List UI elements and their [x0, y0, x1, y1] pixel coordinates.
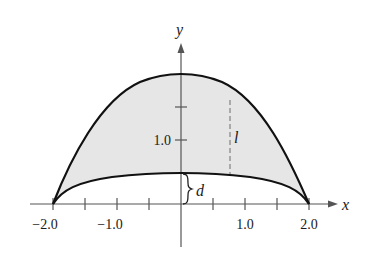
distance-label: d — [196, 182, 205, 199]
region-diagram: y x −2.0 −1.0 1.0 2.0 1.0 l d — [0, 0, 369, 255]
x-tick-label-neg1: −1.0 — [97, 217, 122, 232]
distance-brace — [183, 174, 192, 204]
length-label: l — [234, 129, 239, 146]
x-axis-arrow-icon — [328, 201, 338, 208]
y-tick-label-1: 1.0 — [154, 133, 172, 148]
x-tick-label-neg2: −2.0 — [32, 217, 57, 232]
x-tick-label-2: 2.0 — [300, 217, 318, 232]
x-tick-label-1: 1.0 — [236, 217, 254, 232]
y-axis-arrow-icon — [178, 43, 185, 53]
y-axis-label: y — [174, 21, 184, 39]
x-axis-label: x — [341, 196, 349, 213]
